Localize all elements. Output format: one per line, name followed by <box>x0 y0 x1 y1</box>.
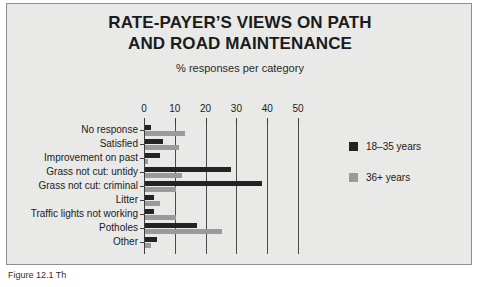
category-label: Litter <box>116 193 138 207</box>
y-tick-mark <box>140 242 144 243</box>
category-label: Satisfied <box>100 137 138 151</box>
legend-entry: 36+ years <box>349 172 421 183</box>
x-tick-mark <box>144 118 145 123</box>
legend-swatch-icon <box>349 173 358 182</box>
chart-title: RATE-PAYER’S VIEWS ON PATH AND ROAD MAIN… <box>7 12 472 54</box>
y-tick-mark <box>140 130 144 131</box>
category-label: Traffic lights not working <box>31 207 138 221</box>
x-tick-mark <box>298 118 299 123</box>
y-tick-mark <box>140 158 144 159</box>
y-tick-mark <box>140 214 144 215</box>
x-tick-label: 40 <box>255 103 279 114</box>
x-tick-label: 0 <box>132 103 156 114</box>
gridline <box>206 122 207 254</box>
bar-older <box>145 159 148 164</box>
bar-older <box>145 243 151 248</box>
x-tick-mark <box>267 118 268 123</box>
x-tick-label: 10 <box>163 103 187 114</box>
chart-figure: RATE-PAYER’S VIEWS ON PATH AND ROAD MAIN… <box>6 3 472 265</box>
legend-entry: 18–35 years <box>349 141 421 152</box>
y-tick-mark <box>140 228 144 229</box>
y-tick-mark <box>140 144 144 145</box>
y-tick-mark <box>140 200 144 201</box>
chart-legend: 18–35 years36+ years <box>349 141 421 203</box>
category-label: Grass not cut: criminal <box>39 179 138 193</box>
category-label: Potholes <box>99 221 138 235</box>
x-tick-label: 20 <box>194 103 218 114</box>
x-tick-mark <box>206 118 207 123</box>
bar-young <box>145 209 154 214</box>
bar-older <box>145 173 182 178</box>
x-tick-mark <box>236 118 237 123</box>
legend-swatch-icon <box>349 142 358 151</box>
chart-title-line-1: RATE-PAYER’S VIEWS ON PATH <box>7 12 472 33</box>
category-label: Improvement on past <box>44 151 138 165</box>
plot-area: 01020304050 No responseSatisfiedImprovem… <box>144 122 298 254</box>
legend-label: 18–35 years <box>366 141 421 152</box>
bar-young <box>145 125 151 130</box>
bar-young <box>145 139 163 144</box>
chart-subtitle: % responses per category <box>7 62 472 74</box>
category-label: No response <box>81 123 138 137</box>
bar-young <box>145 181 262 186</box>
category-label: Other <box>113 235 138 249</box>
bar-older <box>145 229 222 234</box>
x-tick-label: 50 <box>286 103 310 114</box>
bar-young <box>145 167 231 172</box>
bar-young <box>145 195 154 200</box>
bar-young <box>145 223 197 228</box>
legend-label: 36+ years <box>366 172 410 183</box>
gridline <box>236 122 237 254</box>
category-label: Grass not cut: untidy <box>46 165 138 179</box>
y-tick-mark <box>140 186 144 187</box>
bar-older <box>145 215 176 220</box>
gridline <box>298 122 299 254</box>
figure-caption: Figure 12.1 Th <box>8 270 478 280</box>
chart-title-line-2: AND ROAD MAINTENANCE <box>7 33 472 54</box>
bar-older <box>145 187 176 192</box>
bar-young <box>145 153 160 158</box>
bar-older <box>145 145 179 150</box>
gridline <box>267 122 268 254</box>
bar-older <box>145 201 160 206</box>
bar-young <box>145 237 157 242</box>
y-tick-mark <box>140 172 144 173</box>
x-tick-mark <box>175 118 176 123</box>
x-tick-label: 30 <box>224 103 248 114</box>
bar-older <box>145 131 185 136</box>
